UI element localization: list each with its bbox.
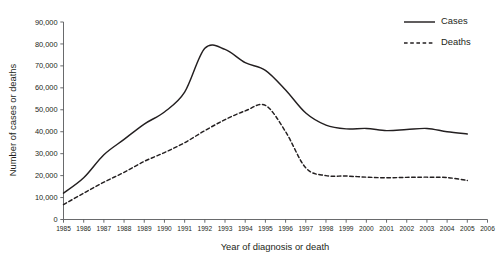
x-tick-label: 1992 (197, 225, 212, 232)
x-tick-label: 1990 (157, 225, 172, 232)
y-axis-ticks: 010,00020,00030,00040,00050,00060,00070,… (35, 18, 64, 225)
y-tick-label: 70,000 (35, 61, 58, 70)
x-tick-label: 1993 (218, 225, 233, 232)
x-tick-label: 1998 (319, 225, 334, 232)
y-tick-label: 40,000 (35, 127, 58, 136)
x-tick-label: 1991 (177, 225, 192, 232)
x-tick-label: 1985 (56, 225, 71, 232)
x-tick-label: 1995 (258, 225, 273, 232)
series-line-deaths (64, 104, 468, 204)
x-tick-label: 1988 (117, 225, 132, 232)
x-tick-label: 2001 (379, 225, 394, 232)
x-tick-label: 1997 (298, 225, 313, 232)
x-tick-label: 2005 (460, 225, 475, 232)
x-axis-ticks: 1985198619871988198919901991199219931994… (56, 220, 495, 233)
x-tick-label: 1989 (137, 225, 152, 232)
y-tick-label: 90,000 (35, 18, 58, 27)
y-tick-label: 60,000 (35, 83, 58, 92)
y-tick-label: 0 (53, 215, 57, 224)
data-series-group (64, 45, 468, 205)
legend-label-deaths: Deaths (441, 36, 471, 47)
x-tick-label: 2006 (480, 225, 495, 232)
x-tick-label: 2002 (399, 225, 414, 232)
x-tick-label: 1994 (238, 225, 253, 232)
legend-label-cases: Cases (441, 15, 468, 26)
y-tick-label: 50,000 (35, 105, 58, 114)
x-tick-label: 1986 (76, 225, 91, 232)
chart-legend: CasesDeaths (404, 15, 471, 47)
y-tick-label: 10,000 (35, 193, 58, 202)
x-tick-label: 1987 (97, 225, 112, 232)
x-tick-label: 2000 (359, 225, 374, 232)
x-axis-title: Year of diagnosis or death (221, 241, 330, 252)
x-tick-label: 1996 (278, 225, 293, 232)
y-tick-label: 80,000 (35, 40, 58, 49)
series-line-cases (64, 45, 468, 193)
x-tick-label: 2003 (420, 225, 435, 232)
y-tick-label: 30,000 (35, 149, 58, 158)
line-chart: 010,00020,00030,00040,00050,00060,00070,… (0, 0, 504, 261)
chart-container: 010,00020,00030,00040,00050,00060,00070,… (0, 0, 504, 261)
y-tick-label: 20,000 (35, 171, 58, 180)
x-tick-label: 2004 (440, 225, 455, 232)
x-tick-label: 1999 (339, 225, 354, 232)
y-axis-title: Number of cases or deaths (7, 63, 18, 176)
